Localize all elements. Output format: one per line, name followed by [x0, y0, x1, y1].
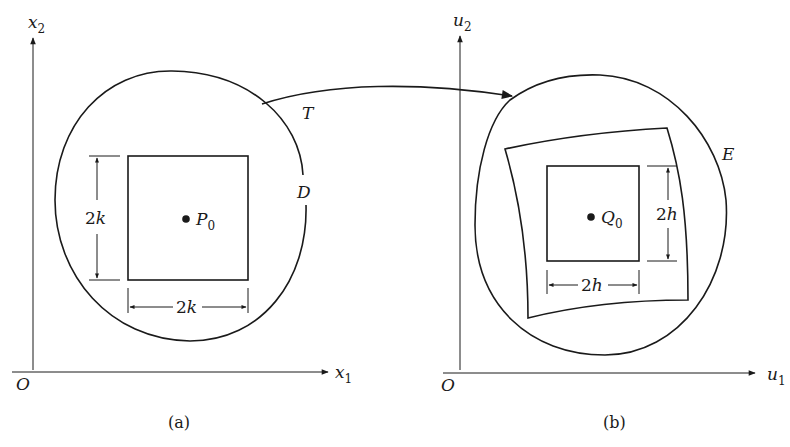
region-d-label: D: [296, 182, 311, 202]
point-q0-label: Q0: [601, 207, 623, 231]
u1-axis-label: u1: [767, 364, 786, 388]
caption-a: (a): [168, 413, 190, 432]
caption-b: (b): [603, 413, 626, 432]
origin-label-b: O: [441, 375, 455, 395]
point-p0-label: P0: [195, 209, 215, 233]
height-label-a: 2k: [85, 208, 106, 228]
width-label-b: 2h: [581, 275, 603, 295]
mapping-arrow: [262, 86, 512, 104]
square-b: [547, 166, 639, 261]
panel-b: u2 u1 O E Q0 2h 2h (b): [441, 10, 786, 432]
x1-axis-label: x1: [335, 362, 352, 386]
u2-axis-label: u2: [453, 10, 472, 34]
region-e-label: E: [721, 144, 735, 164]
panel-a: x2 x1 O D P0 2k 2k (a): [12, 12, 352, 432]
mapping-diagram: x2 x1 O D P0 2k 2k (a) T u2 u1 O E: [0, 0, 790, 447]
origin-label-a: O: [16, 374, 30, 394]
x2-axis-label: x2: [28, 12, 45, 36]
width-label-a: 2k: [176, 297, 197, 317]
mapping-label: T: [302, 103, 315, 123]
point-q0: [587, 213, 595, 221]
point-p0: [182, 215, 190, 223]
height-label-b: 2h: [656, 204, 678, 224]
